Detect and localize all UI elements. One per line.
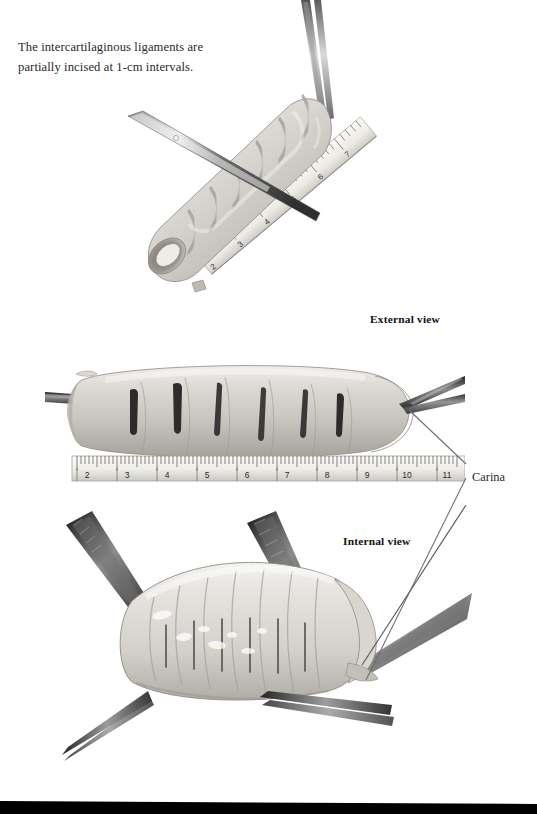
forceps-lower-right-bottom [260,691,394,726]
photo-panel-middle-external: 2 3 4 5 6 7 8 9 10 11 [45,358,465,483]
svg-text:6: 6 [245,470,250,480]
page-bottom-bar [0,798,537,814]
forceps-right-middle [399,376,465,414]
photo-panel-top-external: 2 3 4 5 6 7 [120,0,385,310]
trachea-specimen-bottom [120,562,378,700]
svg-text:5: 5 [205,470,210,480]
svg-text:8: 8 [325,470,330,480]
trachea-specimen-middle [67,366,413,458]
photo-panel-bottom-internal [62,505,472,773]
svg-text:7: 7 [285,470,290,480]
label-internal-view: Internal view [343,535,410,547]
svg-text:11: 11 [443,470,452,480]
svg-text:4: 4 [165,470,170,480]
figure-page: The intercartilaginous ligaments are par… [0,0,537,814]
forceps-lower-left-bottom [62,691,154,761]
svg-text:2: 2 [85,470,90,480]
svg-text:3: 3 [125,470,130,480]
ruler-middle: 2 3 4 5 6 7 8 9 10 11 [72,456,465,481]
svg-text:9: 9 [365,470,370,480]
svg-text:10: 10 [402,470,412,480]
label-external-view: External view [370,313,440,325]
label-carina: Carina [472,470,505,485]
forceps-right-bottom [360,593,472,677]
